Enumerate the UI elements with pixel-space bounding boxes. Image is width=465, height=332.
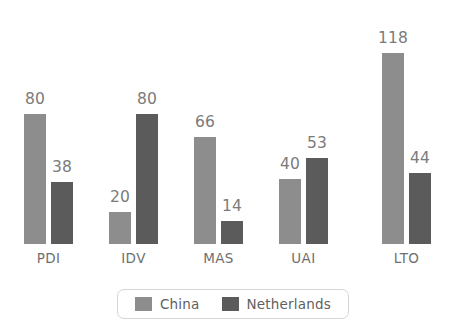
bar-value-label: 44 (390, 149, 450, 167)
bar-uai-china[interactable]: 40 (279, 0, 301, 244)
bar-group-uai: 4053 (279, 0, 328, 248)
category-axis: PDIIDVMASUAILTO (0, 250, 465, 278)
chart-legend: ChinaNetherlands (117, 289, 349, 319)
bar-rect (221, 221, 243, 244)
plot-area: 803820806614405311844 (0, 0, 465, 248)
legend-item-netherlands[interactable]: Netherlands (222, 296, 332, 312)
bar-value-label: 80 (117, 90, 177, 108)
bar-rect (136, 114, 158, 244)
legend-item-china[interactable]: China (135, 296, 200, 312)
category-label-uai: UAI (264, 250, 344, 266)
bar-rect (51, 182, 73, 244)
bar-rect (306, 158, 328, 244)
bar-rect (194, 137, 216, 244)
legend-swatch-icon (222, 297, 239, 311)
legend-swatch-icon (135, 297, 152, 311)
bar-group-idv: 2080 (109, 0, 158, 248)
bar-pdi-china[interactable]: 80 (24, 0, 46, 244)
legend-label: Netherlands (247, 296, 332, 312)
bar-uai-netherlands[interactable]: 53 (306, 0, 328, 244)
bar-rect (24, 114, 46, 244)
category-label-idv: IDV (94, 250, 174, 266)
bar-pdi-netherlands[interactable]: 38 (51, 0, 73, 244)
bar-rect (279, 179, 301, 244)
bar-rect (109, 212, 131, 244)
category-label-mas: MAS (179, 250, 259, 266)
category-label-lto: LTO (367, 250, 447, 266)
bar-idv-china[interactable]: 20 (109, 0, 131, 244)
bar-group-mas: 6614 (194, 0, 243, 248)
bar-group-lto: 11844 (382, 0, 431, 248)
bar-value-label: 14 (202, 197, 262, 215)
legend-label: China (160, 296, 200, 312)
category-label-pdi: PDI (9, 250, 89, 266)
bar-lto-china[interactable]: 118 (382, 0, 404, 244)
bar-lto-netherlands[interactable]: 44 (409, 0, 431, 244)
bar-idv-netherlands[interactable]: 80 (136, 0, 158, 244)
bar-mas-netherlands[interactable]: 14 (221, 0, 243, 244)
bar-rect (409, 173, 431, 244)
bar-value-label: 53 (287, 134, 347, 152)
bar-group-pdi: 8038 (24, 0, 73, 248)
bar-value-label: 38 (32, 158, 92, 176)
bar-chart: 803820806614405311844 PDIIDVMASUAILTO Ch… (0, 0, 465, 332)
